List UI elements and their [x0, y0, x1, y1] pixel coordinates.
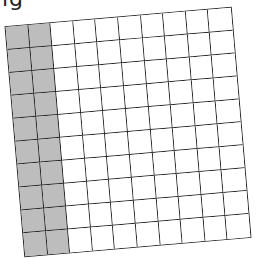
- grid-cell: [83, 134, 107, 159]
- grid-cell: [120, 38, 144, 63]
- grid-cell: [151, 128, 175, 153]
- grid-cell: [208, 8, 232, 33]
- grid-cell: [85, 157, 109, 182]
- grid-cell: [163, 12, 187, 37]
- grid-cell: [158, 220, 182, 245]
- grid-cell: [196, 124, 220, 149]
- grid-cell: [186, 10, 210, 35]
- grid-cell: [87, 180, 111, 205]
- grid-cell: [222, 168, 246, 193]
- grid-cell: [192, 78, 216, 103]
- grid-cell-shaded: [15, 140, 39, 165]
- grid-cell: [102, 86, 126, 111]
- grid-cell-shaded: [23, 231, 47, 256]
- grid-cell: [154, 174, 178, 199]
- grid-cell-shaded: [42, 184, 66, 209]
- grid-cell-shaded: [21, 208, 45, 233]
- grid-cell: [224, 191, 248, 216]
- grid-cell: [210, 31, 234, 56]
- grid-cell: [188, 33, 212, 58]
- grid-cell: [126, 107, 150, 132]
- grid-cell: [212, 54, 236, 79]
- grid-cell: [134, 199, 158, 224]
- grid-cell: [179, 195, 203, 220]
- cropped-heading-fragment: ig: [2, 0, 24, 11]
- grid-cell: [128, 130, 152, 155]
- grid-cell: [79, 88, 103, 113]
- grid-cell: [91, 226, 115, 251]
- grid-cell: [169, 80, 193, 105]
- grid-cell-shaded: [46, 229, 70, 254]
- grid-cell-shaded: [6, 25, 30, 50]
- grid-cell: [104, 109, 128, 134]
- grid-cell-shaded: [40, 161, 64, 186]
- grid-cell: [81, 111, 105, 136]
- grid-cell: [89, 203, 113, 228]
- grid-cell: [73, 19, 97, 44]
- grid-cell: [152, 151, 176, 176]
- grid-cell: [226, 214, 250, 239]
- grid-cell: [190, 56, 214, 81]
- grid-cell: [177, 172, 201, 197]
- grid-cell: [124, 84, 148, 109]
- grid-cell: [203, 216, 227, 241]
- grid-cell: [130, 153, 154, 178]
- grid-cell: [98, 40, 122, 65]
- grid-cell: [165, 35, 189, 60]
- grid-cell: [77, 65, 101, 90]
- grid-cell: [175, 149, 199, 174]
- grid-cell-shaded: [10, 71, 34, 96]
- grid-cell: [55, 67, 79, 92]
- grid-cell: [53, 44, 77, 69]
- grid-cell: [132, 176, 156, 201]
- grid-cell: [145, 59, 169, 84]
- ten-by-ten-grid: [5, 7, 252, 258]
- grid-cell: [109, 178, 133, 203]
- grid-cell: [62, 159, 86, 184]
- grid-cell: [136, 222, 160, 247]
- grid-cell: [107, 155, 131, 180]
- grid-cell-shaded: [34, 92, 58, 117]
- grid-cell: [194, 101, 218, 126]
- grid-cell-shaded: [28, 23, 52, 48]
- grid-cell: [64, 182, 88, 207]
- grid-cell: [113, 224, 137, 249]
- grid-cell: [199, 170, 223, 195]
- grid-cell: [171, 103, 195, 128]
- grid-cell: [68, 228, 92, 253]
- hundred-grid-figure: [5, 7, 252, 258]
- grid-cell-shaded: [38, 138, 62, 163]
- grid-cell-shaded: [11, 94, 35, 119]
- grid-cell: [201, 193, 225, 218]
- grid-cell: [214, 77, 238, 102]
- grid-cell: [105, 132, 129, 157]
- grid-cell: [66, 205, 90, 230]
- grid-cell-shaded: [13, 117, 37, 142]
- grid-cell-shaded: [8, 48, 32, 73]
- grid-cell: [58, 113, 82, 138]
- grid-cell-shaded: [44, 207, 68, 232]
- grid-cell: [198, 147, 222, 172]
- grid-cell-shaded: [30, 46, 54, 71]
- grid-cell: [75, 42, 99, 67]
- grid-cell: [141, 14, 165, 39]
- grid-cell: [96, 17, 120, 42]
- grid-cell: [167, 57, 191, 82]
- grid-cell: [149, 105, 173, 130]
- grid-cell: [118, 15, 142, 40]
- grid-cell: [147, 82, 171, 107]
- grid-cell: [156, 197, 180, 222]
- grid-cell-shaded: [32, 69, 56, 94]
- grid-cell: [143, 36, 167, 61]
- grid-cell-shaded: [17, 163, 41, 188]
- grid-cell: [111, 201, 135, 226]
- grid-cell: [173, 126, 197, 151]
- grid-cell-shaded: [36, 115, 60, 140]
- grid-cell: [122, 61, 146, 86]
- grid-cell: [57, 90, 81, 115]
- grid-cell: [216, 99, 240, 124]
- grid-cell: [60, 136, 84, 161]
- grid-cell: [218, 122, 242, 147]
- grid-cell: [51, 21, 75, 46]
- grid-cell: [100, 63, 124, 88]
